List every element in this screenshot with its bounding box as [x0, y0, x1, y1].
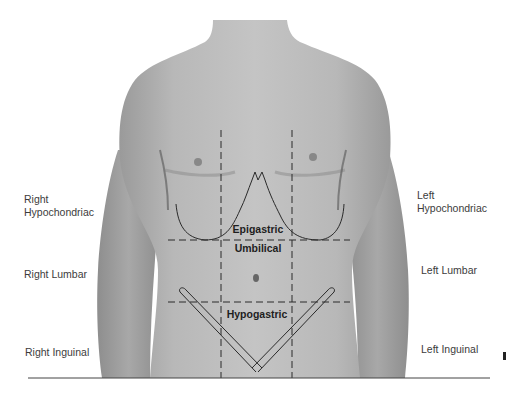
label-right-hypochondriac: Right Hypochondriac: [24, 193, 94, 219]
label-left-inguinal: Left Inguinal: [421, 343, 478, 356]
label-right-lumbar: Right Lumbar: [24, 268, 87, 281]
nipple-left: [309, 153, 317, 161]
torso: [119, 20, 390, 378]
label-hypogastric: Hypogastric: [221, 308, 293, 320]
label-umbilical: Umbilical: [225, 242, 291, 254]
label-epigastric: Epigastric: [225, 223, 291, 235]
label-right-inguinal: Right Inguinal: [25, 346, 89, 359]
navel: [253, 274, 259, 282]
label-left-lumbar: Left Lumbar: [421, 264, 477, 277]
nipple-right: [194, 158, 202, 166]
label-left-hypochondriac: Left Hypochondriac: [417, 189, 487, 215]
